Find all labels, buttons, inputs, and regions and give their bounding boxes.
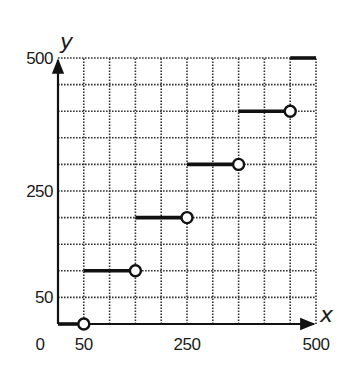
tick-labels: 05025050050250500 <box>26 49 329 354</box>
open-endpoint-circle <box>285 106 296 117</box>
axes <box>58 60 314 324</box>
x-tick-label: 500 <box>303 335 330 354</box>
y-tick-label: 50 <box>35 288 53 307</box>
open-endpoint-circle <box>182 212 193 223</box>
x-tick-label: 0 <box>36 335 45 354</box>
open-endpoint-circle <box>130 265 141 276</box>
y-tick-label: 250 <box>26 182 53 201</box>
open-endpoint-circle <box>233 159 244 170</box>
x-tick-label: 250 <box>174 335 201 354</box>
x-tick-label: 50 <box>75 335 93 354</box>
grid <box>58 58 316 324</box>
x-axis-label: x <box>319 302 334 327</box>
open-endpoint-circle <box>78 319 89 330</box>
y-tick-label: 500 <box>26 49 53 68</box>
step-function-chart: 05025050050250500 x y <box>0 0 358 369</box>
y-axis-label: y <box>59 29 74 54</box>
